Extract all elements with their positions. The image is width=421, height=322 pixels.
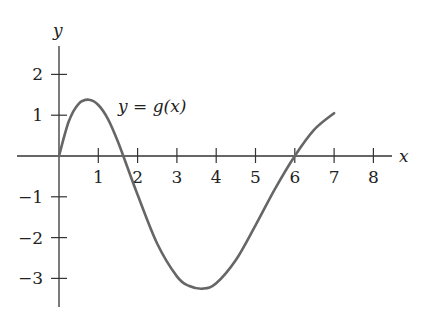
x-tick-label: 8 xyxy=(368,167,379,187)
x-tick-label: 4 xyxy=(211,167,222,187)
x-tick-label: 1 xyxy=(93,167,104,187)
y-tick-label: 2 xyxy=(32,64,43,84)
y-tick-label: −3 xyxy=(18,268,43,288)
x-tick-label: 3 xyxy=(171,167,182,187)
x-tick-label: 7 xyxy=(329,167,340,187)
y-axis-label: y xyxy=(52,20,63,40)
x-tick-label: 5 xyxy=(250,167,261,187)
y-tick-label: −2 xyxy=(18,228,43,248)
curve-g-of-x xyxy=(59,100,334,289)
x-axis-label: x xyxy=(399,146,409,166)
curve-label: y = g(x) xyxy=(117,96,186,116)
ticks: 1234567821−1−2−3 xyxy=(18,64,379,288)
function-graph: 1234567821−1−2−3 x y y = g(x) xyxy=(0,0,421,322)
y-tick-label: 1 xyxy=(32,105,43,125)
y-tick-label: −1 xyxy=(18,187,43,207)
x-tick-label: 6 xyxy=(289,167,300,187)
